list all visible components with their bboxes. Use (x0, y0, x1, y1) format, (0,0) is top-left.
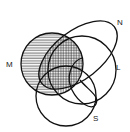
venn-diagram: M N L S (0, 0, 130, 132)
label-s: S (93, 114, 98, 123)
label-m: M (6, 60, 13, 69)
label-l: L (116, 63, 121, 72)
label-n: N (117, 18, 123, 27)
